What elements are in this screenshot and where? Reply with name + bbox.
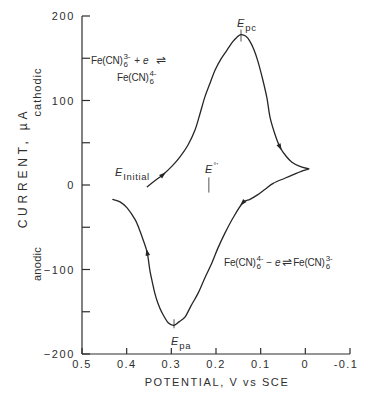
x-axis-title: POTENTIAL, V vs SCE (145, 377, 290, 388)
x-tick-label: 0 (302, 359, 310, 370)
y-tick-label: 0 (67, 180, 75, 191)
cathodic-reaction-line2: Fe(CN)4-6 (117, 70, 156, 86)
cathodic-reaction-line1: Fe(CN)3-6+e⇌ (91, 52, 166, 69)
e-initial-label: EInitial (115, 167, 150, 182)
reactant-formula: Fe(CN) (91, 55, 123, 66)
y-axis-title: CURRENT, µA (17, 108, 29, 229)
product-scripts: 4-6 (150, 70, 157, 86)
e-formal-label: E°' (205, 162, 218, 175)
y-tick-label: −200 (44, 349, 75, 360)
reactant-scripts: 4-6 (257, 255, 264, 271)
subscript: Initial (123, 171, 149, 182)
potential-markers (174, 30, 241, 329)
reactant-formula: Fe(CN) (224, 257, 256, 268)
electron: e (143, 55, 148, 66)
symbol: E (171, 335, 178, 347)
plus-operator: + (134, 55, 140, 66)
minus-operator: − (266, 257, 272, 268)
anodic-region-label: anodic (32, 247, 43, 281)
subscript: 6 (150, 78, 157, 86)
arrow-head-icon (146, 249, 150, 256)
x-tick-label: 0.5 (72, 359, 92, 370)
product-scripts: 3-6 (326, 255, 333, 271)
x-tick-label: 0.3 (162, 359, 182, 370)
arrow-head-icon (240, 199, 246, 206)
symbol: E (115, 166, 122, 178)
x-tick-label: -0.1 (334, 359, 359, 370)
product-formula: Fe(CN) (293, 257, 325, 268)
y-tick-label: 200 (52, 11, 75, 22)
x-tick-label: 0.2 (206, 359, 226, 370)
subscript: 6 (124, 61, 131, 69)
subscript: pc (245, 22, 256, 33)
e-pa-label: Epa (171, 336, 191, 351)
reactant-scripts: 3-6 (124, 53, 131, 69)
x-tick-label: 0.1 (251, 359, 271, 370)
voltammogram-plot (0, 0, 366, 394)
subscript: pa (179, 340, 191, 351)
electron: e (275, 257, 280, 268)
y-tick-label: 100 (52, 95, 75, 106)
anodic-reaction: Fe(CN)4-6−e⇌Fe(CN)3-6 (224, 254, 332, 271)
symbol: E (237, 17, 244, 29)
e-pc-label: Epc (237, 18, 257, 33)
y-tick-label: −100 (44, 264, 75, 275)
product-formula: Fe(CN) (117, 72, 149, 83)
subscript: 6 (257, 263, 264, 271)
equilibrium-arrow-icon: ⇌ (156, 53, 166, 67)
superscript: °' (213, 161, 218, 170)
x-tick-label: 0.4 (117, 359, 137, 370)
arrow-head-icon (276, 143, 281, 150)
equilibrium-arrow-icon: ⇌ (282, 255, 292, 269)
cathodic-region-label: cathodic (32, 68, 43, 117)
subscript: 6 (326, 263, 333, 271)
symbol: E (205, 163, 212, 175)
